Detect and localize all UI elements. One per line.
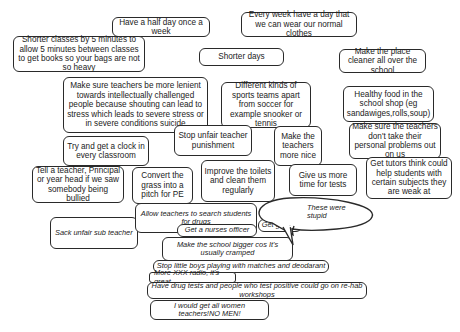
callout-text: These were stupid [307,204,353,221]
speech-bubble-icon [0,0,460,332]
